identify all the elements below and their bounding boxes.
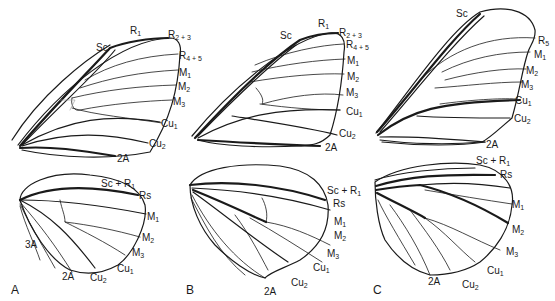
label-a-fw-r4-5: R4 + 5 <box>179 51 202 61</box>
panel-letter-c: C <box>373 284 382 296</box>
label-a-hw-rs: Rs <box>139 191 151 201</box>
label-c-fw-sc: Sc <box>456 9 468 19</box>
label-a-hw-cu1: Cu1 <box>117 264 134 274</box>
label-a-hw-m2: M2 <box>142 233 154 243</box>
label-a-fw-cu2: Cu2 <box>149 139 166 149</box>
label-a-fw-m1: M1 <box>179 68 191 78</box>
label-b-hw-2a: 2A <box>264 287 276 297</box>
label-c-fw-m1: M1 <box>534 50 546 60</box>
label-c-fw-m2: M2 <box>526 66 538 76</box>
wing-venation-figure: Sc R1 R2 + 3 R4 + 5 M1 M2 M3 Cu1 Cu2 2A … <box>0 0 555 301</box>
label-b-hw-m1: M1 <box>334 217 346 227</box>
label-c-fw-m3: M3 <box>521 80 533 90</box>
label-b-fw-m2: M2 <box>347 72 359 82</box>
label-b-hw-rs: Rs <box>333 199 345 209</box>
label-b-fw-m1: M1 <box>347 56 359 66</box>
label-c-fw-2a: 2A <box>486 140 498 150</box>
label-c-fw-cu1: Cu1 <box>515 96 532 106</box>
label-b-fw-sc: Sc <box>280 31 292 41</box>
label-a-hw-2a: 2A <box>62 272 74 282</box>
label-a-fw-cu1: Cu1 <box>161 119 178 129</box>
label-c-hw-sc-r1: Sc + R1 <box>476 156 510 166</box>
panel-c-forewing-drawing <box>376 9 535 145</box>
label-c-fw-r5: R5 <box>538 36 549 46</box>
label-b-fw-r1: R1 <box>318 19 329 29</box>
label-a-fw-2a: 2A <box>117 154 129 164</box>
label-b-fw-2a: 2A <box>325 143 337 153</box>
wing-drawings <box>0 0 555 301</box>
label-c-hw-cu1: Cu1 <box>487 266 504 276</box>
label-a-fw-m3: M3 <box>173 97 185 107</box>
panel-c-hindwing-drawing <box>375 163 513 275</box>
panel-letter-b: B <box>186 284 194 296</box>
label-c-hw-2a: 2A <box>428 277 440 287</box>
label-c-hw-m2: M2 <box>512 225 524 235</box>
label-b-fw-r4-5: R4 + 5 <box>346 40 369 50</box>
panel-letter-a: A <box>11 284 19 296</box>
label-b-hw-m3: M3 <box>327 249 339 259</box>
label-a-fw-r2-3: R2 + 3 <box>168 30 191 40</box>
label-a-hw-m3: M3 <box>132 248 144 258</box>
label-b-fw-cu1: Cu1 <box>346 107 363 117</box>
label-c-hw-cu2: Cu2 <box>462 280 479 290</box>
label-b-fw-r2-3: R2 + 3 <box>339 28 362 38</box>
label-c-hw-rs: Rs <box>500 170 512 180</box>
label-c-hw-m3: M3 <box>506 247 518 257</box>
label-a-fw-m2: M2 <box>178 82 190 92</box>
label-b-fw-m3: M3 <box>346 88 358 98</box>
label-b-hw-cu2: Cu2 <box>291 278 308 288</box>
label-b-fw-cu2: Cu2 <box>339 129 356 139</box>
label-b-hw-sc-r1: Sc + R1 <box>327 186 361 196</box>
label-a-hw-cu2: Cu2 <box>90 273 107 283</box>
label-b-hw-m2: M2 <box>334 231 346 241</box>
panel-b-forewing-drawing <box>192 33 345 147</box>
panel-b-hindwing-drawing <box>190 165 330 278</box>
label-c-hw-m1: M1 <box>512 200 524 210</box>
label-a-hw-m1: M1 <box>147 212 159 222</box>
label-a-fw-sc: Sc <box>96 43 108 53</box>
label-c-fw-cu2: Cu2 <box>514 114 531 124</box>
label-a-fw-r1: R1 <box>130 26 141 36</box>
label-b-hw-cu1: Cu1 <box>313 263 330 273</box>
label-a-hw-sc-r1: Sc + R1 <box>101 179 135 189</box>
label-a-hw-3a: 3A <box>25 240 37 250</box>
